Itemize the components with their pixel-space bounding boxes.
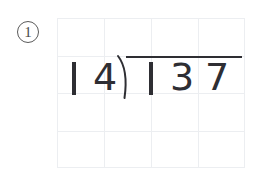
division-bracket-icon [116, 55, 130, 98]
long-division-expression: 4 3 7 [0, 0, 257, 180]
dividend-digit-2: 3 [170, 58, 194, 96]
divisor-digit-1 [72, 62, 76, 95]
dividend-digit-1 [149, 62, 153, 95]
divisor-digit-2: 4 [93, 58, 117, 96]
dividend-digit-3: 7 [205, 58, 229, 96]
worksheet-page: 1 4 3 7 [0, 0, 257, 180]
